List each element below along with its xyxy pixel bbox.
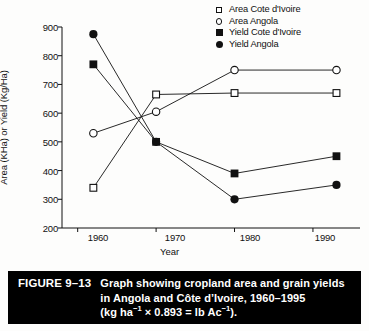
chart-svg bbox=[0, 0, 369, 265]
legend-item-area-angola[interactable]: Area Angola bbox=[216, 16, 301, 28]
figure-number: FIGURE 9–13 bbox=[18, 276, 100, 291]
legend-label: Yield Angola bbox=[228, 39, 279, 51]
open-circle-icon bbox=[216, 18, 228, 24]
series-layer bbox=[89, 30, 340, 203]
filled-circle-icon bbox=[216, 41, 228, 48]
caption-line-3: (kg ha−1 × 0.893 = lb Ac−1). bbox=[100, 305, 344, 320]
caption-line-1: Graph showing cropland area and grain yi… bbox=[100, 276, 344, 291]
legend-label: Area Angola bbox=[228, 16, 278, 28]
caption-line3-prefix: (kg ha bbox=[100, 306, 133, 318]
caption-line3-sup1: −1 bbox=[133, 305, 142, 314]
filled-square-icon bbox=[216, 29, 228, 36]
legend-label: Yield Cote d'Ivoire bbox=[228, 27, 301, 39]
figure-9-13: Area (KHa) or Yield (Kg/Ha) 900 800 700 … bbox=[0, 0, 369, 331]
chart-legend: Area Cote d'Ivoire Area Angola Yield Cot… bbox=[216, 4, 301, 50]
legend-item-yield-angola[interactable]: Yield Angola bbox=[216, 39, 301, 51]
caption-line3-suffix: ). bbox=[230, 306, 237, 318]
open-square-icon bbox=[216, 7, 228, 13]
chart-plot-region: Area (KHa) or Yield (Kg/Ha) 900 800 700 … bbox=[0, 0, 369, 265]
figure-caption: FIGURE 9–13 Graph showing cropland area … bbox=[8, 271, 361, 324]
caption-line-2: in Angola and Côte d’Ivoire, 1960–1995 bbox=[100, 291, 344, 306]
caption-line3-mid: × 0.893 = lb Ac bbox=[142, 306, 222, 318]
legend-label: Area Cote d'Ivoire bbox=[228, 4, 300, 16]
caption-text: Graph showing cropland area and grain yi… bbox=[100, 276, 344, 320]
caption-line3-sup2: −1 bbox=[222, 305, 231, 314]
legend-item-yield-cote-divoire[interactable]: Yield Cote d'Ivoire bbox=[216, 27, 301, 39]
legend-item-area-cote-divoire[interactable]: Area Cote d'Ivoire bbox=[216, 4, 301, 16]
